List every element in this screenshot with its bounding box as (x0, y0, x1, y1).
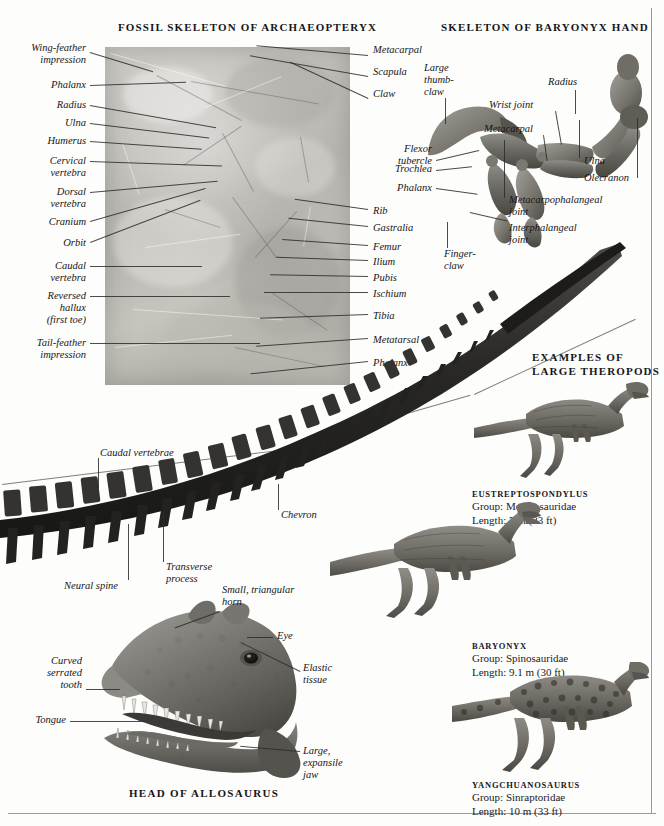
label-tongue: Tongue (10, 714, 66, 726)
leader-eye (247, 637, 273, 638)
theropod-illustration-baryonyx (330, 500, 542, 624)
leader-radius-baryonyx (575, 90, 576, 114)
theropod-illustration-eustreptospondylus (474, 376, 650, 486)
label-humerus: Humerus (8, 135, 86, 147)
theropod-group-2: Group: Sinraptoridae (472, 791, 565, 805)
leader-neural-spine (128, 524, 129, 580)
label-phalanx-baryonyx: Phalanx (372, 182, 432, 194)
leader-large-thumb-claw (445, 98, 446, 124)
section-title-archaeopteryx: FOSSIL SKELETON OF ARCHAEOPTERYX (118, 20, 377, 34)
label-metacarpophalangeal-joint: Metacarpophalangeal joint (509, 194, 635, 218)
label-ulna-left: Ulna (8, 117, 86, 129)
label-elastic-tissue: Elastic tissue (303, 662, 359, 686)
section-title-baryonyx-hand: SKELETON OF BARYONYX HAND (441, 20, 649, 34)
theropod-name-2: YANGCHUANOSAURUS (472, 780, 580, 790)
label-radius-left: Radius (8, 99, 86, 111)
leader-transverse-process (163, 512, 164, 562)
label-transverse-process: Transverse process (166, 561, 244, 585)
leader-metacarpophalangeal-joint (504, 140, 505, 198)
leader-caudal-vertebrae (98, 458, 99, 488)
label-phalanx-left: Phalanx (8, 79, 86, 91)
section-title-allosaurus: HEAD OF ALLOSAURUS (129, 786, 279, 800)
leader-chevron (278, 484, 279, 510)
theropod-name-0: EUSTREPTOSPONDYLUS (472, 489, 588, 499)
reference-page: FOSSIL SKELETON OF ARCHAEOPTERYX SKELETO… (0, 0, 664, 826)
label-cranium: Cranium (8, 216, 86, 228)
label-large-thumb-claw: Large thumb- claw (424, 62, 482, 99)
leader-ulna-baryonyx (579, 120, 580, 158)
label-metacarpal-baryonyx: Metacarpal (484, 123, 556, 135)
theropod-illustration-yangchuanosaurus (452, 662, 650, 782)
label-small-triangular-horn: Small, triangular horn (222, 584, 332, 608)
label-ulna-baryonyx: Ulna (584, 155, 636, 167)
theropod-name-1: BARYONYX (472, 641, 527, 651)
label-cervical-vertebra: Cervical vertebra (8, 155, 86, 179)
label-caudal-vertebrae: Caudal vertebrae (100, 447, 220, 459)
label-wing-feather-impression: Wing-feather impression (8, 42, 86, 66)
allosaurus-head-illustration (70, 588, 320, 780)
leader-tongue (70, 721, 144, 722)
label-radius-baryonyx: Radius (548, 76, 604, 88)
label-large-expansile-jaw: Large, expansile jaw (303, 745, 365, 782)
label-trochlea: Trochlea (372, 163, 432, 175)
label-curved-serrated-tooth: Curved serrated tooth (6, 655, 82, 692)
leader-curved-serrated-tooth (86, 689, 120, 690)
label-dorsal-vertebra: Dorsal vertebra (8, 186, 86, 210)
theropod-length-2: Length: 10 m (33 ft) (472, 805, 562, 819)
leader-olecranon (637, 118, 638, 178)
label-wrist-joint: Wrist joint (489, 99, 559, 111)
label-eye: Eye (277, 630, 317, 642)
